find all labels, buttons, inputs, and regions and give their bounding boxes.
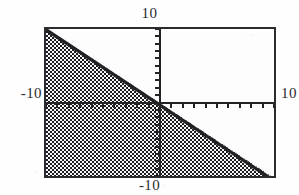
- y-axis-tick: [155, 94, 160, 96]
- y-axis-tick: [155, 131, 160, 133]
- plot-area: [46, 29, 274, 176]
- y-axis-tick: [155, 109, 160, 111]
- y-axis-tick: [155, 43, 160, 45]
- x-axis-tick: [182, 104, 184, 108]
- y-axis-tick: [155, 168, 160, 170]
- x-axis-tick: [262, 104, 264, 108]
- y-axis-tick: [155, 175, 160, 176]
- x-axis-tick: [239, 104, 241, 108]
- x-axis-tick: [46, 104, 47, 108]
- y-axis-ticks: [155, 29, 160, 176]
- y-axis-tick: [155, 35, 160, 37]
- y-axis-tick: [155, 57, 160, 59]
- x-axis-tick: [205, 104, 207, 108]
- x-axis-tick: [227, 104, 229, 108]
- x-axis-tick: [273, 104, 274, 108]
- y-axis-tick: [155, 79, 160, 81]
- x-axis-tick: [125, 104, 127, 108]
- y-axis-tick: [155, 146, 160, 148]
- x-axis-tick: [56, 104, 58, 108]
- x-axis-tick: [136, 104, 138, 108]
- y-axis-tick: [155, 124, 160, 126]
- plot-frame: [44, 27, 276, 178]
- x-axis-max-label: 10: [281, 86, 299, 101]
- inequality-region-figure: 10 -10 10 -10: [0, 0, 299, 195]
- y-axis-tick: [155, 87, 160, 89]
- x-axis-tick: [148, 104, 150, 108]
- y-axis-min-label: -10: [0, 178, 299, 193]
- y-axis-tick: [155, 153, 160, 155]
- y-axis-tick: [155, 65, 160, 67]
- y-axis-tick: [155, 138, 160, 140]
- x-axis-ticks: [46, 104, 274, 108]
- x-axis-tick: [68, 104, 70, 108]
- x-axis-tick: [216, 104, 218, 108]
- x-axis-tick: [113, 104, 115, 108]
- x-axis-tick: [193, 104, 195, 108]
- y-axis-max-label: 10: [0, 6, 299, 21]
- y-axis-tick: [155, 50, 160, 52]
- y-axis-tick: [155, 29, 160, 30]
- y-axis-tick: [155, 160, 160, 162]
- x-axis-tick: [170, 104, 172, 108]
- x-axis-tick: [79, 104, 81, 108]
- y-axis-tick: [155, 116, 160, 118]
- x-axis-tick: [250, 104, 252, 108]
- x-axis-min-label: -10: [6, 86, 42, 101]
- x-axis-tick: [102, 104, 104, 108]
- y-axis-tick: [155, 72, 160, 74]
- x-axis-tick: [91, 104, 93, 108]
